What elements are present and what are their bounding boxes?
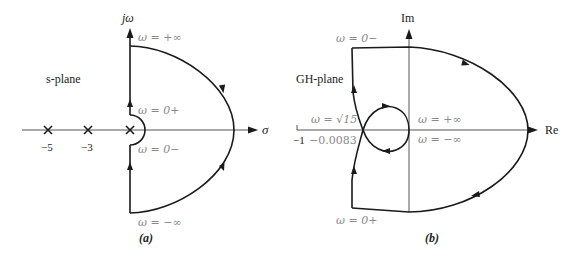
re-axis-arrow-icon: [528, 127, 538, 134]
tick-label-crossing: −0.0083: [309, 134, 357, 147]
tick-label-minus-one: −1: [293, 134, 305, 146]
label-omega-sqrt15: ω = √15: [311, 113, 357, 126]
panel-a: jω σ ω = +∞ s-plane ω = 0+ ω = 0− ω = −∞…: [22, 11, 269, 245]
re-axis-label: Re: [545, 123, 558, 137]
direction-arrow-icon: [382, 148, 390, 154]
direction-arrow-icon: [351, 85, 357, 93]
tick-label-minus5: −5: [41, 141, 53, 153]
direction-arrow-icon: [382, 103, 390, 109]
im-axis-label: Im: [401, 11, 415, 25]
label-omega-0-minus: ω = 0−: [138, 143, 179, 156]
caption-b: (b): [425, 231, 439, 245]
tick-label-minus3: −3: [81, 141, 93, 153]
small-loop: [363, 107, 409, 152]
direction-arrow-icon: [127, 162, 133, 170]
jw-axis-label: jω: [120, 11, 134, 25]
direction-arrow-icon: [127, 99, 133, 107]
panel-b: Im Re ω = 0− GH-plane ω = √15 ω = +∞ ω =…: [293, 11, 558, 245]
contour-left-branch: [352, 48, 363, 208]
label-omega-plus-inf: ω = +∞: [138, 31, 182, 44]
label-omega-minus-inf: ω = −∞: [418, 133, 462, 146]
sigma-axis-arrow-icon: [248, 127, 258, 134]
im-axis-arrow-icon: [406, 29, 413, 39]
label-omega-minus-inf: ω = −∞: [138, 216, 182, 229]
label-omega-0-plus: ω = 0+: [336, 214, 377, 227]
gh-plane-label: GH-plane: [296, 72, 343, 86]
caption-a: (a): [139, 231, 153, 245]
s-plane-label: s-plane: [46, 72, 81, 86]
sigma-axis-label: σ: [262, 122, 269, 137]
label-omega-0-minus: ω = 0−: [336, 32, 377, 45]
label-omega-0-plus: ω = 0+: [138, 104, 179, 117]
direction-arrow-icon: [351, 166, 357, 174]
nyquist-diagram: jω σ ω = +∞ s-plane ω = 0+ ω = 0− ω = −∞…: [0, 0, 577, 258]
jw-axis-arrow-icon: [127, 28, 134, 38]
direction-arrow-icon: [471, 191, 480, 197]
label-omega-plus-inf: ω = +∞: [418, 113, 462, 126]
